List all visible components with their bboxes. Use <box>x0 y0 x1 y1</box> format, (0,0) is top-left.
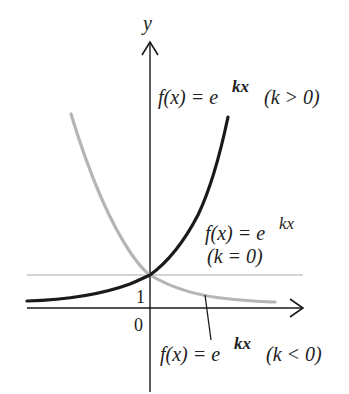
svg-text:f(x) = e: f(x) = e <box>160 343 220 366</box>
y-axis-label: y <box>141 12 152 35</box>
decay-curve-k-negative <box>71 114 275 302</box>
growth-curve-label: f(x) = e kx (k > 0) <box>158 77 320 109</box>
constant-line-label: f(x) = e kx (k = 0) <box>205 214 295 268</box>
decay-leader-line <box>205 295 211 340</box>
decay-curve-label: f(x) = e kx (k < 0) <box>160 334 322 366</box>
tick-label-zero: 0 <box>134 315 143 335</box>
svg-text:(k > 0): (k > 0) <box>264 86 320 109</box>
exponential-functions-chart: y 1 0 f(x) = e kx (k > 0) f(x) = e kx (k… <box>0 0 349 394</box>
svg-text:(k < 0): (k < 0) <box>266 343 322 366</box>
svg-text:kx: kx <box>279 214 295 233</box>
svg-text:kx: kx <box>234 334 252 353</box>
svg-text:(k = 0): (k = 0) <box>207 245 263 268</box>
svg-text:kx: kx <box>232 77 250 96</box>
growth-curve-k-positive <box>27 117 228 301</box>
tick-label-one: 1 <box>136 287 145 307</box>
svg-text:f(x) = e: f(x) = e <box>205 222 265 245</box>
svg-text:f(x) = e: f(x) = e <box>158 86 218 109</box>
